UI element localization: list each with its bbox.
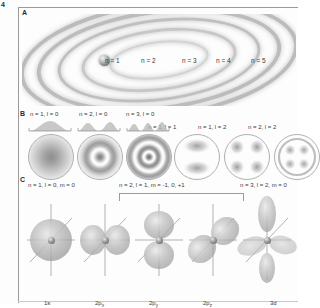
density-label-2: n = 3, l = 0	[126, 111, 154, 117]
density-cell-n2-l2	[274, 120, 318, 132]
orbital-2pz: 2pz	[184, 200, 242, 280]
density-disc-n1-l2	[224, 134, 270, 180]
nucleus-dot-1s	[48, 237, 55, 244]
density-label-0: n = 1, l = 0	[30, 111, 58, 117]
density-disc-n2-l2	[274, 134, 320, 180]
shell-label-n3: n = 3	[182, 57, 197, 64]
nucleus-dot-2py	[156, 237, 163, 244]
density-disc-3s	[126, 134, 172, 180]
radial-curve-n1-l2	[224, 120, 268, 132]
shell-label-n1: n = 1	[105, 57, 120, 64]
radial-curve-2s	[77, 120, 121, 132]
left-rule	[18, 7, 19, 303]
density-disc-2s	[77, 134, 123, 180]
radial-curve-n2-l2	[274, 120, 318, 132]
radial-curve-n1-l1	[174, 120, 218, 132]
orbital-2px: 2px	[76, 200, 134, 280]
radial-curve-1s	[28, 120, 72, 132]
orbital-group-label-2: n = 3, l = 2, m = 0	[240, 182, 287, 188]
orbital-1s: 1s	[22, 200, 80, 280]
density-label-1: n = 2, l = 0	[79, 111, 107, 117]
shell-label-n4: n = 4	[216, 57, 231, 64]
orbital-name-2pz: 2pz	[203, 300, 212, 308]
orbital-2py: 2py	[130, 200, 188, 280]
orbital-name-2py: 2py	[149, 300, 158, 308]
nucleus-dot-2pz	[210, 237, 217, 244]
top-rule	[18, 7, 298, 8]
panel-b-probability-densities: n = 1, l = 0 n = 2, l = 0 n = 3, l = 0 n…	[22, 116, 296, 176]
density-cell-2s	[77, 120, 121, 132]
figure-number: 4	[1, 1, 5, 8]
orbital-group-label-0: n = 1, l = 0, m = 0	[28, 182, 75, 188]
orbital-group-label-1: n = 2, l = 1, m = -1, 0, +1	[119, 182, 185, 188]
panel-a-bohr-orbits: n = 1 n = 2 n = 3 n = 4 n = 5	[22, 14, 296, 106]
density-disc-n1-l1	[174, 134, 220, 180]
panel-c-orbital-shapes: n = 1, l = 0, m = 0 n = 2, l = 1, m = -1…	[22, 182, 296, 300]
orbital-3d: 3d	[238, 200, 296, 280]
shell-label-n2: n = 2	[141, 57, 156, 64]
density-cell-n1-l1	[174, 120, 218, 132]
nucleus-dot-2px	[102, 237, 109, 244]
density-cell-n1-l2	[224, 120, 268, 132]
density-cell-3s	[126, 120, 170, 132]
shell-label-n5: n = 5	[251, 57, 266, 64]
orbital-name-3d: 3d	[270, 300, 277, 306]
orbital-name-1s: 1s	[44, 300, 50, 306]
density-disc-1s	[28, 134, 74, 180]
radial-curve-3s	[126, 120, 170, 132]
density-cell-1s	[28, 120, 72, 132]
nucleus-dot-3d	[264, 237, 271, 244]
orbital-name-2px: 2px	[95, 300, 104, 308]
bottom-rule	[18, 301, 298, 302]
